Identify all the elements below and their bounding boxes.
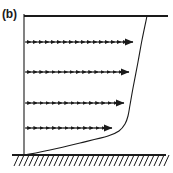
hatch-stroke	[79, 155, 84, 166]
hatch-stroke	[114, 155, 119, 166]
hatch-stroke	[54, 155, 59, 166]
hatch-stroke	[154, 155, 159, 166]
hatch-stroke	[134, 155, 139, 166]
hatch-stroke	[94, 155, 99, 166]
hatch-stroke	[34, 155, 39, 166]
figure-panel-b: (b)	[0, 0, 173, 173]
hatch-stroke	[49, 155, 54, 166]
velocity-vector-rows	[25, 42, 133, 128]
hatch-stroke	[29, 155, 34, 166]
hatch-stroke	[139, 155, 144, 166]
hatch-stroke	[74, 155, 79, 166]
hatch-stroke	[159, 155, 164, 166]
hatch-stroke	[144, 155, 149, 166]
ground-hatching	[14, 155, 169, 166]
hatch-stroke	[19, 155, 24, 166]
hatch-stroke	[124, 155, 129, 166]
hatch-stroke	[149, 155, 154, 166]
hatch-stroke	[64, 155, 69, 166]
velocity-profile-chart	[0, 0, 173, 173]
hatch-stroke	[89, 155, 94, 166]
hatch-stroke	[69, 155, 74, 166]
hatch-stroke	[39, 155, 44, 166]
hatch-stroke	[119, 155, 124, 166]
hatch-stroke	[104, 155, 109, 166]
hatch-stroke	[59, 155, 64, 166]
hatch-stroke	[84, 155, 89, 166]
hatch-stroke	[129, 155, 134, 166]
panel-label: (b)	[2, 7, 17, 21]
hatch-stroke	[14, 155, 19, 166]
velocity-profile-curve	[25, 16, 147, 155]
hatch-stroke	[109, 155, 114, 166]
hatch-stroke	[164, 155, 169, 166]
hatch-stroke	[99, 155, 104, 166]
hatch-stroke	[24, 155, 29, 166]
hatch-stroke	[44, 155, 49, 166]
